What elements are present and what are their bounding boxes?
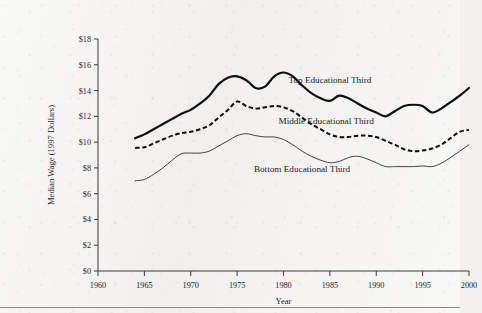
- x-axis-title: Year: [276, 296, 292, 306]
- x-axis-tick-label: 1995: [414, 281, 430, 290]
- x-axis-tick-label: 1980: [275, 281, 291, 290]
- x-axis-tick-label: 1960: [90, 281, 106, 290]
- y-axis-tick-label: $12: [79, 112, 91, 121]
- y-axis-tick-label: $0: [83, 267, 91, 276]
- x-axis-tick-label: 1975: [229, 281, 245, 290]
- x-axis-tick-label: 1985: [322, 281, 338, 290]
- y-axis-tick-label: $2: [83, 241, 91, 250]
- series-annotations: Top Educational ThirdMiddle Educational …: [254, 75, 374, 174]
- series-inline-label: Bottom Educational Third: [254, 164, 351, 174]
- y-axis-tick-label: $8: [83, 164, 91, 173]
- y-axis-tick-label: $10: [79, 138, 91, 147]
- x-axis: 196019651970197519801985199019952000: [90, 271, 477, 290]
- y-axis-title: Median Wage (1997 Dollars): [46, 105, 56, 205]
- series-inline-label: Top Educational Third: [288, 75, 371, 85]
- series-line-middle: [135, 101, 469, 151]
- y-axis: $0$2$4$6$8$10$12$14$16$18: [79, 35, 98, 276]
- page-footer-rule: [0, 307, 460, 308]
- x-axis-tick-label: 1970: [183, 281, 199, 290]
- x-axis-tick-label: 1965: [136, 281, 152, 290]
- y-axis-tick-label: $14: [79, 87, 91, 96]
- x-axis-tick-label: 1990: [368, 281, 384, 290]
- y-axis-tick-label: $6: [83, 190, 91, 199]
- y-axis-tick-label: $4: [83, 215, 91, 224]
- chart-canvas: $0$2$4$6$8$10$12$14$16$18 19601965197019…: [40, 16, 482, 313]
- x-axis-tick-label: 2000: [461, 281, 477, 290]
- series-inline-label: Middle Educational Third: [279, 116, 375, 126]
- y-axis-tick-label: $18: [79, 35, 91, 44]
- y-axis-tick-label: $16: [79, 61, 91, 70]
- line-chart-median-wage-by-educational-third: $0$2$4$6$8$10$12$14$16$18 19601965197019…: [40, 16, 420, 297]
